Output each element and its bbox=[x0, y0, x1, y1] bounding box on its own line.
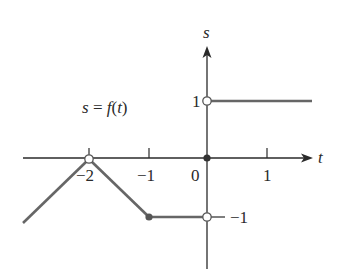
t-axis-label: t bbox=[318, 148, 324, 167]
s-label-minus-one: −1 bbox=[230, 208, 248, 227]
tick-label-1: 1 bbox=[263, 166, 272, 185]
filled-dot-t-minus-1 bbox=[145, 213, 152, 220]
function-label: s = f(t) bbox=[82, 98, 128, 117]
filled-dot-origin bbox=[203, 154, 210, 161]
s-label-one: 1 bbox=[192, 92, 201, 111]
graph: s t s = f(t) −2 −1 0 1 1 −1 bbox=[0, 0, 339, 273]
open-dot-t-minus-2 bbox=[85, 155, 93, 163]
open-dot-t-0-one bbox=[203, 97, 211, 105]
tick-label-minus-2: −2 bbox=[76, 166, 94, 185]
tick-label-0: 0 bbox=[191, 166, 200, 185]
open-dot-t-0-minus-1 bbox=[203, 213, 211, 221]
s-axis-label: s bbox=[203, 23, 210, 42]
tick-label-minus-1: −1 bbox=[137, 166, 155, 185]
